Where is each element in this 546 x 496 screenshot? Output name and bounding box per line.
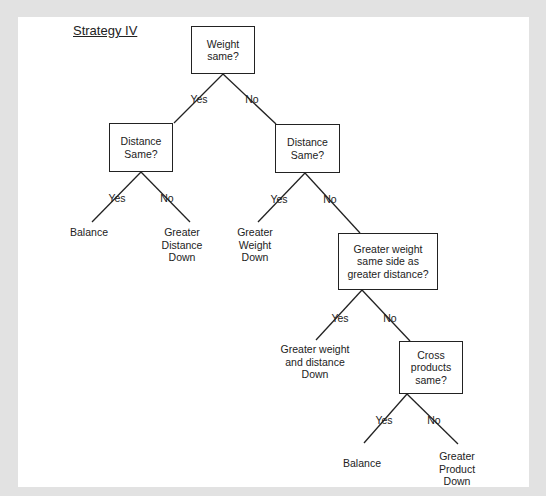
node-cross-products-same: Cross products same?	[399, 341, 463, 394]
leaf-greater-weight-down: Greater Weight Down	[237, 226, 273, 264]
leaf-greater-product-down: Greater Product Down	[439, 450, 475, 488]
node-greater-weight-same-side: Greater weight same side as greater dist…	[338, 233, 438, 290]
node-weight-same: Weight same?	[191, 26, 255, 74]
edge-label-no: No	[323, 193, 336, 205]
leaf-greater-distance-down: Greater Distance Down	[162, 226, 203, 264]
edge-label-no: No	[383, 312, 396, 324]
edge-label-yes: Yes	[108, 192, 125, 204]
leaf-greater-weight-and-distance-down: Greater weight and distance Down	[281, 343, 350, 381]
edge-label-no: No	[160, 192, 173, 204]
edge-label-no: No	[427, 414, 440, 426]
leaf-balance: Balance	[70, 226, 108, 239]
edge-label-yes: Yes	[270, 193, 287, 205]
edge-label-no: No	[245, 93, 258, 105]
node-distance-same-right: Distance Same?	[275, 124, 340, 173]
leaf-balance: Balance	[343, 457, 381, 470]
node-distance-same-left: Distance Same?	[109, 123, 173, 172]
edge-label-yes: Yes	[331, 312, 348, 324]
diagram-title: Strategy IV	[73, 23, 137, 38]
tree-edges	[0, 0, 546, 496]
edge-label-yes: Yes	[190, 93, 207, 105]
edge-label-yes: Yes	[375, 414, 392, 426]
